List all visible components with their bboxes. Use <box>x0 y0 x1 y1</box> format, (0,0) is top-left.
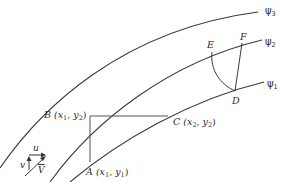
line-d-f <box>235 43 242 91</box>
label-psi3: ψ3 <box>265 6 276 18</box>
label-psi1: ψ1 <box>267 79 278 91</box>
label-point-d: D <box>232 96 240 106</box>
label-point-b: B (x1, y2) <box>44 110 87 122</box>
label-point-e: E <box>207 40 214 50</box>
label-psi2: ψ2 <box>265 37 276 49</box>
label-point-c: C (x2, y2) <box>173 117 216 129</box>
v-arrowhead <box>27 156 32 161</box>
streamline-diagram: ψ3 ψ2 ψ1 E F D B (x1, y2) C (x2, y2) A (… <box>0 0 282 182</box>
diagram-graphics <box>0 0 282 182</box>
label-v: v <box>20 161 25 170</box>
label-u: u <box>33 144 39 153</box>
label-velocity-V: V <box>38 166 45 175</box>
label-point-f: F <box>240 32 247 42</box>
arc-d-e <box>212 52 235 91</box>
label-point-a: A (x1, y1) <box>86 167 128 179</box>
